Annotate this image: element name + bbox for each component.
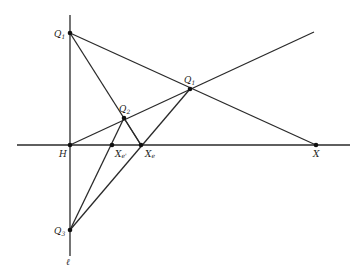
label-h: H (58, 149, 67, 159)
label-line-l: ℓ (66, 257, 70, 267)
label-q2: Q2 (119, 104, 130, 115)
point-h (68, 143, 73, 148)
geometry-diagram: Q1 H Q3 ℓ X Q1 Q2 Xe' Xe (0, 0, 361, 277)
label-xe: Xe (144, 149, 155, 159)
label-q3: Q3 (54, 226, 65, 237)
point-q2 (122, 116, 127, 121)
label-x: X (312, 149, 320, 159)
label-q1: Q1 (54, 29, 65, 40)
label-xe-prime: Xe' (114, 149, 127, 159)
line-q3-q2 (70, 118, 124, 230)
label-q1-prime: Q1 (184, 75, 195, 86)
point-x (314, 143, 319, 148)
point-q1-prime (188, 87, 193, 92)
point-q3 (68, 228, 73, 233)
point-q1 (68, 31, 73, 36)
point-xe-prime (110, 143, 115, 148)
line-q2-xe (124, 118, 141, 145)
point-xe (139, 143, 144, 148)
